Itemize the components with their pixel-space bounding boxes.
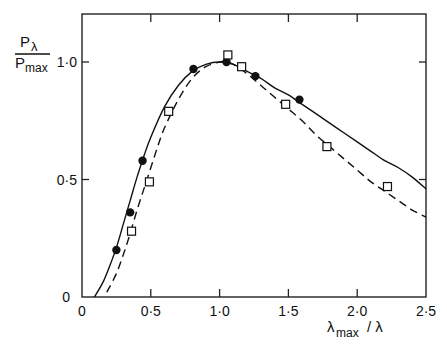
x-axis-label: λ max / λ [327,318,383,340]
y-tick-label: 0·5 [57,172,77,188]
x-tick-label: 1·0 [209,303,229,319]
filled-circle-marker [251,72,259,80]
x-tick-label: 0·5 [141,303,161,319]
y-tick-label: 1·0 [57,54,77,70]
x-label-tail: / λ [367,318,383,335]
open-square-marker [383,183,391,191]
y-label-numerator-sub: λ [31,39,38,54]
filled-circle-marker [126,208,134,216]
open-square-marker [224,51,232,59]
solid-curve [94,62,426,297]
x-tick-label: 1·5 [278,303,298,319]
plot-frame [82,14,426,297]
dashed-curve [107,62,426,293]
x-tick-label: 0 [78,303,86,319]
filled-circle-marker [138,157,146,165]
y-label-denominator: P [15,54,25,71]
filled-circle-marker [112,246,120,254]
y-label-numerator: P [20,33,30,50]
open-square-marker [238,63,246,71]
y-axis-label: P λ P max [15,33,50,75]
y-tick-label: 0 [62,289,70,305]
open-square-marker [282,100,290,108]
x-tick-label: 2·0 [347,303,367,319]
open-square-marker [128,227,136,235]
x-tick-label: 2·5 [416,303,436,319]
filled-circle-marker [189,65,197,73]
x-label-sub: max [336,326,359,340]
open-square-marker [165,107,173,115]
x-label-main: λ [327,318,335,335]
open-square-marker [323,143,331,151]
y-label-denominator-sub: max [25,61,48,75]
open-square-marker [145,178,153,186]
filled-circle-marker [295,95,303,103]
chart: 00·51·01·52·02·500·51·0 P λ P max λ max … [0,0,447,352]
curves [94,62,426,297]
data-markers [112,51,391,254]
plot-border [82,14,426,297]
axis-ticks [82,14,426,297]
